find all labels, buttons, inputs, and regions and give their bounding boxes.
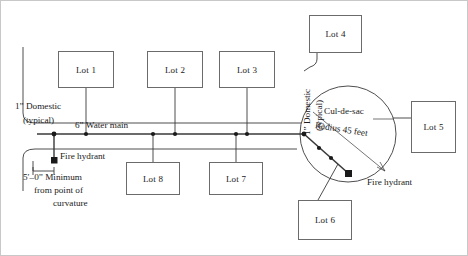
lot-box-lot8: Lot 8 — [126, 162, 180, 195]
annotation-domestic-left-line2: (typical) — [23, 115, 54, 127]
annotation-domestic-left-line1: 1” Domestic — [15, 101, 61, 113]
annotation-minimum-line1: 5′–0” Minimum — [23, 172, 82, 184]
lot-label: Lot 7 — [226, 174, 246, 184]
annotation-water-main: 6” Water main — [75, 120, 128, 132]
lot-box-lot3: Lot 3 — [219, 51, 275, 88]
lot-box-lot6: Lot 6 — [298, 200, 352, 240]
lot-label: Lot 5 — [423, 122, 443, 132]
annotation-culdesac: Cul-de-sac — [324, 106, 364, 118]
lot-box-lot2: Lot 2 — [147, 51, 203, 88]
annotation-fire-hydrant-left: Fire hydrant — [60, 151, 105, 163]
annotation-fire-hydrant-right: Fire hydrant — [367, 177, 412, 189]
annotation-domestic-rot-line1: 1” Domestic — [302, 89, 314, 135]
water-main-branch — [304, 134, 348, 173]
lot-label: Lot 2 — [165, 65, 185, 75]
annotation-minimum-line3: curvature — [53, 198, 88, 210]
lot-box-lot1: Lot 1 — [58, 51, 114, 88]
diagram-linework — [1, 1, 468, 256]
lot-label: Lot 6 — [315, 215, 335, 225]
service-lot4 — [304, 53, 317, 71]
lot-box-lot7: Lot 7 — [209, 162, 263, 195]
lot-box-lot4: Lot 4 — [309, 15, 362, 53]
lot-box-lot5: Lot 5 — [411, 101, 456, 153]
diagram-canvas: Lot 1 Lot 2 Lot 3 Lot 4 Lot 5 Lot 6 Lot … — [0, 0, 468, 256]
lot-label: Lot 3 — [237, 65, 257, 75]
lot-label: Lot 1 — [76, 65, 96, 75]
service-lot6 — [318, 164, 338, 200]
lot-label: Lot 8 — [143, 174, 163, 184]
lot-label: Lot 4 — [325, 29, 345, 39]
annotation-minimum-line2: from point of — [34, 185, 83, 197]
